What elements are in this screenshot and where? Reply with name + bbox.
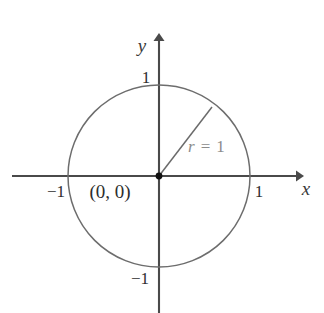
x-axis-label: x bbox=[301, 178, 311, 199]
radius-label-equals: = bbox=[201, 137, 211, 156]
svg-text:r=1: r=1 bbox=[188, 137, 225, 156]
unit-circle-figure: y x 1 −1 1 −1 (0, 0) r=1 bbox=[0, 0, 324, 313]
y-axis-arrowhead bbox=[154, 33, 165, 41]
origin-dot bbox=[156, 173, 163, 180]
tick-label-x-negative: −1 bbox=[47, 182, 65, 201]
radius-label-value: 1 bbox=[216, 137, 225, 156]
tick-label-y-positive: 1 bbox=[142, 68, 151, 87]
radius-label-group: r=1 bbox=[188, 137, 225, 156]
y-axis-label: y bbox=[136, 35, 147, 56]
origin-label: (0, 0) bbox=[89, 181, 130, 203]
tick-label-y-negative: −1 bbox=[131, 269, 149, 288]
tick-label-x-positive: 1 bbox=[255, 182, 264, 201]
radius-label-variable: r bbox=[188, 137, 195, 156]
unit-circle-canvas: y x 1 −1 1 −1 (0, 0) r=1 bbox=[0, 0, 324, 313]
